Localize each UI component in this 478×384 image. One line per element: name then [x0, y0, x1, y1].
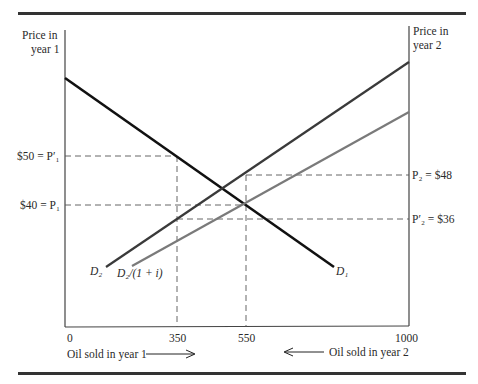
x-tick-0: 0	[67, 331, 73, 345]
x-label-year2: Oil sold in year 2	[329, 345, 409, 359]
x-tick-350: 350	[169, 331, 186, 345]
left-axis-label-line1: Price in	[22, 28, 57, 42]
p1-prime-label: $50 = P′₁	[17, 149, 59, 163]
x-tick-550: 550	[238, 331, 255, 345]
bottom-axis	[65, 326, 409, 327]
x-label-year1: Oil sold in year 1	[67, 347, 147, 361]
p2-prime-label: P′₂ = $36	[412, 212, 454, 226]
right-axis-label-line2: year 2	[413, 38, 441, 52]
left-axis-label-line2: year 1	[31, 42, 59, 56]
p2-label: P₂ = $48	[412, 168, 452, 182]
d1-label: D₁	[336, 264, 348, 278]
x-tick-1000: 1000	[395, 331, 418, 345]
diagram-canvas	[0, 0, 478, 384]
right-axis-label-line1: Price in	[413, 24, 448, 38]
d2-discounted-curve	[132, 112, 409, 266]
d2-discounted-label: D₂/(1 + i)	[117, 266, 163, 280]
p1-label: $40 = P₁	[20, 198, 60, 212]
d1-curve	[65, 78, 334, 267]
d2-curve	[106, 62, 409, 267]
d2-label: D₂	[90, 264, 102, 278]
